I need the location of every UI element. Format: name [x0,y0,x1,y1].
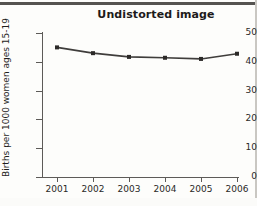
series-markers [55,45,239,61]
data-point-2004 [163,56,167,60]
data-point-2005 [199,57,203,61]
data-point-2002 [91,51,95,55]
data-series-layer [0,0,257,206]
chart-figure: Undistorted image Births per 1000 women … [0,0,257,206]
series-line [57,47,237,59]
data-point-2006 [235,52,239,56]
data-point-2003 [127,55,131,59]
figure-bottom-edge [0,198,257,206]
data-point-2001 [55,45,59,49]
